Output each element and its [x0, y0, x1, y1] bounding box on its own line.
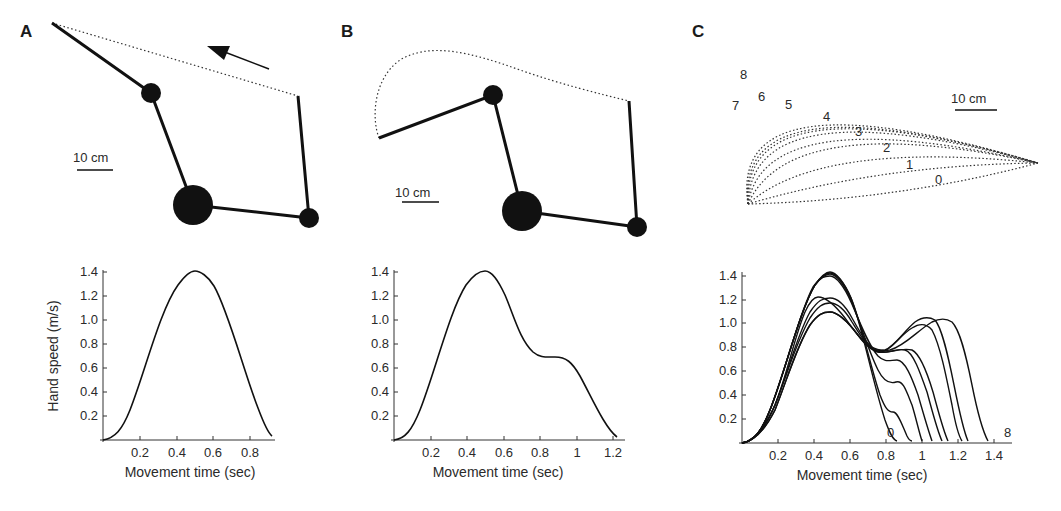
- y-tick: 1.4: [80, 264, 98, 279]
- x-tick: 0.6: [204, 445, 222, 460]
- path-label-4: 4: [823, 109, 830, 124]
- y-tick: 1.0: [719, 315, 737, 330]
- arm-start-pose: [52, 23, 193, 205]
- chart-c: 0.2 0.4 0.6 0.8 1.0 1.2 1.4 0.2 0.4 0.6 …: [719, 268, 1012, 483]
- elbow-joint-end: [299, 208, 319, 228]
- y-axis-label: Hand speed (m/s): [45, 300, 61, 411]
- path-label-6: 6: [758, 89, 765, 104]
- path-label-2: 2: [883, 140, 890, 155]
- arrow-icon: [207, 46, 269, 69]
- y-tick: 1.2: [371, 288, 389, 303]
- hand-paths: [747, 125, 1038, 204]
- panel-a-diagram: A 10 cm: [20, 22, 319, 228]
- shoulder-joint: [502, 191, 542, 231]
- y-tick: 1.4: [719, 268, 737, 283]
- scale-bar-label-c: 10 cm: [951, 91, 986, 106]
- y-tick: 0.8: [80, 336, 98, 351]
- chart-b: 0.2 0.4 0.6 0.8 1.0 1.2 1.4 0.2 0.4 0.6 …: [371, 264, 625, 480]
- x-axis-label: Movement time (sec): [433, 464, 564, 480]
- path-label-7: 7: [732, 98, 739, 113]
- x-tick: 0.4: [168, 445, 186, 460]
- elbow-joint-start: [483, 85, 503, 105]
- x-tick: 1: [573, 445, 580, 460]
- x-tick: 0.2: [422, 445, 440, 460]
- panel-b-diagram: B 10 cm: [341, 22, 647, 237]
- x-tick: 0.4: [458, 445, 476, 460]
- scale-bar-label-a: 10 cm: [73, 150, 108, 165]
- y-tick: 0.6: [80, 360, 98, 375]
- curve-label-last: 8: [1004, 425, 1011, 440]
- y-tick: 1.0: [80, 312, 98, 327]
- path-label-0: 0: [935, 172, 942, 187]
- speed-curve: [394, 271, 617, 440]
- x-tick: 1.2: [949, 448, 967, 463]
- path-label-3: 3: [855, 124, 862, 139]
- chart-a: 0.2 0.4 0.6 0.8 1.0 1.2 1.4 0.2 0.4 0.6 …: [45, 264, 275, 480]
- figure-canvas: A 10 cm B 10 cm C: [0, 0, 1061, 511]
- y-tick: 0.6: [719, 363, 737, 378]
- x-tick: 0.2: [131, 445, 149, 460]
- shoulder-joint: [173, 185, 213, 225]
- curve-label-first: 0: [887, 425, 894, 440]
- panel-c-diagram: C 0 1 2 3 4 5 6 7 8 10 cm: [692, 22, 1038, 204]
- elbow-joint-end: [627, 217, 647, 237]
- path-label-1: 1: [906, 157, 913, 172]
- hand-path-dotted: [52, 23, 298, 96]
- x-tick: 0.6: [841, 448, 859, 463]
- y-tick: 1.4: [371, 264, 389, 279]
- x-tick: 1: [918, 448, 925, 463]
- panel-letter-a: A: [20, 22, 32, 41]
- panel-letter-c: C: [692, 22, 704, 41]
- y-tick: 0.8: [719, 339, 737, 354]
- x-axis-label: Movement time (sec): [797, 467, 928, 483]
- y-tick: 0.6: [371, 360, 389, 375]
- path-label-8: 8: [740, 67, 747, 82]
- y-tick: 0.4: [371, 384, 389, 399]
- x-tick: 0.4: [805, 448, 823, 463]
- x-tick: 0.8: [241, 445, 259, 460]
- y-tick: 0.4: [719, 387, 737, 402]
- y-tick: 0.2: [80, 408, 98, 423]
- y-tick: 1.2: [719, 292, 737, 307]
- scale-bar-label-b: 10 cm: [395, 185, 430, 200]
- path-label-5: 5: [785, 97, 792, 112]
- x-axis-label: Movement time (sec): [125, 464, 256, 480]
- x-tick: 0.6: [495, 445, 513, 460]
- y-tick: 1.0: [371, 312, 389, 327]
- elbow-joint-start: [141, 83, 161, 103]
- y-tick: 0.2: [719, 411, 737, 426]
- y-tick: 0.8: [371, 336, 389, 351]
- speed-curves: [742, 272, 988, 443]
- x-tick: 1.4: [985, 448, 1003, 463]
- y-tick: 0.4: [80, 384, 98, 399]
- x-tick: 0.2: [769, 448, 787, 463]
- x-tick: 0.8: [531, 445, 549, 460]
- x-tick: 0.8: [877, 448, 895, 463]
- y-tick: 1.2: [80, 288, 98, 303]
- panel-letter-b: B: [341, 22, 353, 41]
- x-tick: 1.2: [604, 445, 622, 460]
- speed-curve: [103, 271, 272, 440]
- y-tick: 0.2: [371, 408, 389, 423]
